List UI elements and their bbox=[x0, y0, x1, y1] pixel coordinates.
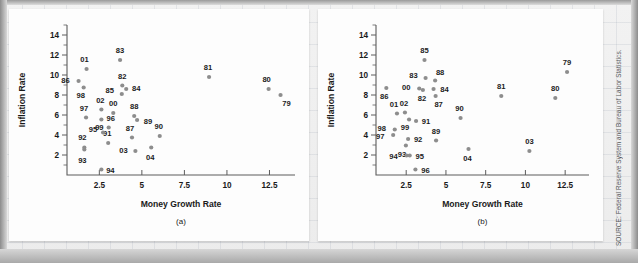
data-point-marker bbox=[120, 92, 124, 96]
data-point-marker bbox=[407, 117, 411, 121]
page-bottom-edge bbox=[0, 249, 638, 263]
data-point: 80 bbox=[262, 75, 270, 91]
data-point-marker bbox=[408, 153, 412, 157]
data-point-label: 89 bbox=[144, 117, 152, 126]
data-point-marker bbox=[393, 127, 397, 131]
y-tick-label: 2 bbox=[54, 151, 59, 160]
data-point: 86 bbox=[380, 86, 388, 101]
data-point: 99 bbox=[95, 117, 103, 131]
data-point: 01 bbox=[390, 100, 399, 116]
data-point: 04 bbox=[146, 145, 155, 161]
scatter-chart-b: 24681012142.557.51012.5Money Growth Rate… bbox=[318, 9, 603, 241]
data-point-marker bbox=[434, 94, 438, 98]
data-point: 03 bbox=[525, 137, 533, 153]
data-point-label: 81 bbox=[497, 82, 506, 91]
y-tick-label: 12 bbox=[359, 51, 369, 60]
data-point-marker bbox=[395, 111, 399, 115]
data-point-marker bbox=[417, 86, 421, 90]
y-tick-label: 6 bbox=[363, 111, 368, 120]
y-tick-label: 2 bbox=[363, 151, 368, 160]
data-point-marker bbox=[133, 149, 137, 153]
x-tick-label: 2.5 bbox=[94, 181, 106, 190]
y-tick-label: 8 bbox=[54, 91, 59, 100]
data-point: 95 bbox=[408, 152, 425, 161]
data-point: 85 bbox=[420, 46, 429, 62]
data-point-label: 87 bbox=[126, 124, 134, 133]
data-point: 89 bbox=[432, 127, 440, 143]
data-point: 97 bbox=[80, 104, 88, 120]
chart-svg-b: 24681012142.557.51012.5Money Growth Rate… bbox=[318, 9, 603, 241]
data-point-marker bbox=[384, 86, 388, 90]
page-top-edge bbox=[0, 0, 638, 5]
data-point: 03 bbox=[119, 146, 137, 155]
data-point-label: 01 bbox=[80, 55, 89, 64]
data-point-label: 02 bbox=[400, 99, 408, 108]
data-point: 90 bbox=[155, 122, 163, 138]
data-point-marker bbox=[466, 147, 470, 151]
data-point-label: 79 bbox=[563, 58, 571, 67]
data-point-label: 95 bbox=[415, 152, 424, 161]
page-right-edge bbox=[631, 0, 638, 263]
data-point-label: 92 bbox=[78, 133, 86, 142]
data-point: 96 bbox=[413, 166, 429, 175]
data-point-label: 84 bbox=[132, 84, 141, 93]
data-point-label: 89 bbox=[432, 127, 440, 136]
data-point: 82 bbox=[118, 72, 126, 88]
data-point-label: 98 bbox=[378, 124, 386, 133]
data-point-label: 97 bbox=[376, 132, 384, 141]
data-point-marker bbox=[120, 83, 124, 87]
chart-svg-a: 24681012142.557.51012.5Money Growth Rate… bbox=[9, 9, 309, 241]
data-point: 01 bbox=[80, 55, 89, 71]
data-point-marker bbox=[527, 149, 531, 153]
data-point: 02 bbox=[400, 99, 408, 115]
data-point-marker bbox=[124, 87, 128, 91]
data-point-label: 79 bbox=[282, 99, 290, 108]
data-point-label: 86 bbox=[380, 92, 388, 101]
y-axis-title: Inflation Rate bbox=[17, 73, 27, 128]
data-point-label: 04 bbox=[463, 154, 472, 163]
data-point-marker bbox=[106, 141, 110, 145]
data-point-label: 99 bbox=[401, 123, 409, 132]
y-tick-label: 14 bbox=[359, 31, 369, 40]
data-point-label: 98 bbox=[76, 91, 84, 100]
source-note: SOURCE: Federal Reserve System and Burea… bbox=[615, 26, 629, 246]
data-point: 02 bbox=[96, 96, 104, 112]
data-point: 81 bbox=[497, 82, 506, 98]
data-point-label: 92 bbox=[414, 135, 422, 144]
data-point-marker bbox=[82, 147, 86, 151]
data-point-label: 02 bbox=[96, 96, 104, 105]
data-point-marker bbox=[99, 117, 103, 121]
x-tick-label: 5 bbox=[140, 181, 145, 190]
data-point-label: 83 bbox=[116, 46, 124, 55]
scatter-chart-a: 24681012142.557.51012.5Money Growth Rate… bbox=[9, 9, 309, 241]
x-axis-title: Money Growth Rate bbox=[442, 199, 523, 209]
data-point: 04 bbox=[463, 147, 472, 163]
data-point-marker bbox=[565, 70, 569, 74]
y-tick-label: 12 bbox=[50, 51, 60, 60]
data-point-marker bbox=[421, 88, 425, 92]
data-point-marker bbox=[406, 137, 410, 141]
y-axis-title: Inflation Rate bbox=[326, 73, 336, 128]
data-point: 88 bbox=[130, 102, 138, 118]
data-point-marker bbox=[107, 125, 111, 129]
data-point-marker bbox=[132, 114, 136, 118]
figure-page: 24681012142.557.51012.5Money Growth Rate… bbox=[0, 0, 638, 263]
data-point-label: 94 bbox=[106, 166, 115, 175]
data-point: 98 bbox=[378, 124, 397, 133]
x-tick-label: 10 bbox=[222, 181, 232, 190]
x-tick-label: 7.5 bbox=[480, 181, 492, 190]
data-point-label: 03 bbox=[119, 146, 127, 155]
data-point-marker bbox=[414, 119, 418, 123]
y-tick-label: 10 bbox=[359, 71, 369, 80]
data-point-marker bbox=[391, 133, 395, 137]
data-point-label: 00 bbox=[109, 99, 117, 108]
data-point: 88 bbox=[433, 68, 444, 83]
data-point-marker bbox=[118, 58, 122, 62]
y-tick-label: 4 bbox=[54, 131, 59, 140]
y-tick-label: 8 bbox=[363, 91, 368, 100]
plot-area-a: 24681012142.557.51012.5Money Growth Rate… bbox=[9, 9, 309, 241]
data-point-label: 84 bbox=[440, 85, 449, 94]
data-point-marker bbox=[431, 87, 435, 91]
data-point-label: 91 bbox=[422, 117, 431, 126]
data-point-marker bbox=[433, 78, 437, 82]
